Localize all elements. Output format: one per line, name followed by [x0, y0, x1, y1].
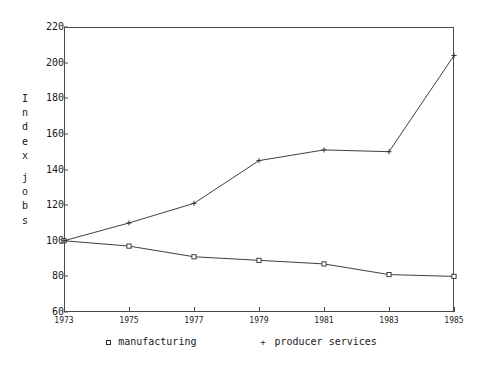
legend-plus-marker-icon: + — [258, 338, 267, 347]
line-chart: Indexjobs 2202001801601401201008060 1973… — [0, 0, 483, 369]
x-tick-mark — [454, 307, 455, 312]
data-point-marker — [321, 147, 326, 152]
y-axis-title-char: x — [14, 149, 36, 163]
y-tick-label: 220 — [30, 22, 64, 32]
y-tick-label: 80 — [30, 271, 64, 281]
y-tick-label: 120 — [30, 200, 64, 210]
y-axis-title-char: s — [14, 214, 36, 228]
legend-label: manufacturing — [118, 336, 196, 348]
data-point-marker — [192, 255, 196, 259]
x-tick-label: 1973 — [44, 316, 84, 325]
y-tick-label: 100 — [30, 236, 64, 246]
data-point-marker — [322, 262, 326, 266]
x-tick-label: 1981 — [304, 316, 344, 325]
chart-legend: manufacturing+producer services — [0, 336, 483, 348]
data-point-marker — [387, 272, 391, 276]
legend-square-marker-icon — [106, 340, 111, 345]
x-tick-label: 1985 — [434, 316, 474, 325]
data-point-marker — [451, 53, 456, 58]
x-tick-label: 1979 — [239, 316, 279, 325]
data-point-marker — [127, 244, 131, 248]
x-tick-label: 1977 — [174, 316, 214, 325]
x-tick-label: 1975 — [109, 316, 149, 325]
y-tick-label: 160 — [30, 129, 64, 139]
y-axis-title-char: n — [14, 106, 36, 120]
series-manufacturing — [62, 239, 456, 279]
data-point-marker — [126, 220, 131, 225]
series-producer-services — [61, 53, 456, 243]
data-point-marker — [191, 201, 196, 206]
legend-label: producer services — [274, 336, 376, 348]
y-tick-label: 180 — [30, 93, 64, 103]
legend-item: +producer services — [258, 336, 376, 348]
y-tick-label: 140 — [30, 165, 64, 175]
y-axis-title-char: o — [14, 185, 36, 199]
data-point-marker — [386, 149, 391, 154]
series-layer — [64, 27, 454, 312]
x-tick-label: 1983 — [369, 316, 409, 325]
data-point-marker — [257, 258, 261, 262]
series-line — [64, 56, 454, 241]
data-point-marker — [256, 158, 261, 163]
data-point-marker — [452, 274, 456, 278]
y-tick-label: 200 — [30, 58, 64, 68]
legend-item: manufacturing — [106, 336, 196, 348]
